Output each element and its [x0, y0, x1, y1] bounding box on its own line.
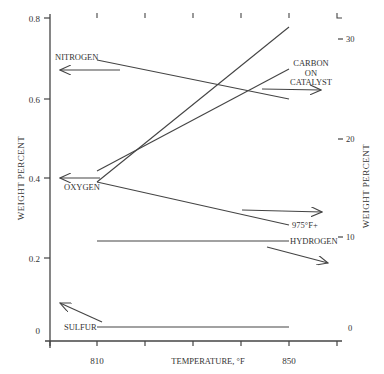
series-oxygen [97, 27, 289, 182]
975f-arrow-icon [242, 210, 322, 212]
top-ticks [97, 13, 342, 18]
y-axis-label-left: WEIGHT PERCENT [16, 136, 26, 221]
y-tick-0: 0 [36, 326, 41, 336]
hydrogen-arrow-icon [267, 247, 328, 263]
x-tick-810: 810 [90, 356, 104, 366]
y-axis-label-right: WEIGHT PERCENT [361, 144, 371, 229]
right-y-axis: 30 20 10 0 WEIGHT PERCENT [338, 34, 371, 333]
y-tick-0.8: 0.8 [29, 14, 41, 24]
y-tick-0.4: 0.4 [29, 174, 41, 184]
series-carbon-on-catalyst [97, 69, 289, 171]
sulfur-arrow-icon [60, 303, 102, 322]
label-carbon-line1: CARBON [293, 58, 328, 68]
series-labels: NITROGEN OXYGEN SULFUR CARBON ON CATALYS… [55, 52, 338, 332]
label-hydrogen: HYDROGEN [290, 236, 338, 246]
y-right-tick-20: 20 [346, 134, 355, 144]
y-right-tick-30: 30 [346, 34, 355, 44]
label-carbon-line3: CATALYST [290, 77, 333, 87]
x-tick-850: 850 [282, 356, 296, 366]
label-oxygen: OXYGEN [64, 182, 100, 192]
left-y-axis: 0.8 0.6 0.4 0.2 0 WEIGHT PERCENT [16, 14, 50, 348]
y-tick-0.2: 0.2 [29, 254, 40, 264]
x-axis: 810 850 TEMPERATURE, °F [45, 341, 342, 366]
y-right-tick-0: 0 [348, 323, 352, 333]
label-sulfur: SULFUR [64, 322, 97, 332]
annotation-arrows [60, 70, 328, 322]
carbon-arrow-icon [262, 89, 321, 90]
data-lines [97, 27, 289, 327]
x-axis-label: TEMPERATURE, °F [171, 356, 245, 366]
chart: 0.8 0.6 0.4 0.2 0 WEIGHT PERCENT 810 850… [0, 0, 384, 374]
y-right-tick-10: 10 [346, 232, 355, 242]
label-975f-plus: 975°F+ [292, 220, 318, 230]
series-975f-plus [97, 182, 289, 225]
label-nitrogen: NITROGEN [55, 52, 98, 62]
series-nitrogen [97, 60, 289, 99]
y-tick-0.6: 0.6 [29, 95, 41, 105]
